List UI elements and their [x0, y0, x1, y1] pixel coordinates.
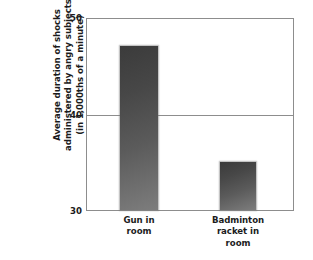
x-axis-label-gun-in-room: Gun in room: [104, 215, 174, 238]
x-axis-label-gun-line-2: room: [104, 226, 174, 237]
x-axis-label-badminton-line-1: Badminton: [198, 215, 278, 226]
x-axis-label-gun-line-1: Gun in: [104, 215, 174, 226]
y-axis-tick-30: 30: [60, 207, 82, 216]
plot-area: [86, 18, 294, 211]
x-axis-label-badminton-racket-in-room: Badminton racket in room: [198, 215, 278, 249]
bar-chart-figure: Average duration of shocks administered …: [0, 0, 313, 260]
x-axis-label-badminton-line-2: racket in: [198, 226, 278, 237]
gridline-40: [87, 115, 293, 116]
y-axis-tick-50: 50: [60, 14, 82, 23]
bar-badminton-racket-in-room: [220, 162, 256, 210]
y-axis-tick-labels: 50 40 30: [58, 0, 82, 260]
y-axis-tick-40: 40: [60, 111, 82, 120]
bar-gun-in-room: [120, 46, 158, 210]
x-axis-label-badminton-line-3: room: [198, 238, 278, 249]
